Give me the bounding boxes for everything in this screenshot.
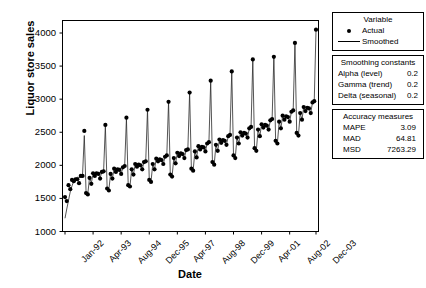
- legend-label-smoothed: Smoothed: [362, 37, 420, 46]
- data-point: [258, 134, 262, 138]
- data-point: [173, 161, 177, 165]
- data-point: [300, 118, 304, 122]
- accuracy-row-mape: MAPE 3.09: [336, 122, 420, 133]
- data-point: [102, 169, 106, 173]
- data-point: [191, 169, 195, 173]
- data-point: [207, 140, 211, 144]
- data-point: [279, 126, 283, 130]
- data-point: [63, 195, 67, 199]
- data-point: [182, 156, 186, 160]
- smoothing-gamma-label: Gamma (trend): [338, 79, 392, 90]
- data-point: [110, 176, 114, 180]
- data-point: [181, 152, 185, 156]
- smoothed-series-line: [65, 30, 316, 218]
- accuracy-msd-label: MSD: [343, 144, 361, 155]
- data-point: [66, 183, 70, 187]
- data-point: [166, 100, 170, 104]
- data-point: [80, 174, 84, 178]
- data-point: [209, 79, 213, 83]
- accuracy-msd-value: 7263.29: [387, 144, 416, 155]
- smoothing-gamma-value: 0.2: [407, 79, 418, 90]
- data-point: [312, 99, 316, 103]
- data-point: [86, 192, 90, 196]
- data-point: [77, 181, 81, 185]
- data-point: [277, 120, 281, 124]
- data-point: [281, 114, 285, 118]
- data-point: [123, 164, 127, 168]
- data-point: [144, 159, 148, 163]
- smoothing-alpha-value: 0.2: [407, 68, 418, 79]
- accuracy-measures-panel: Accuracy measures MAPE 3.09 MAD 64.81 MS…: [332, 109, 424, 159]
- data-point: [298, 111, 302, 115]
- data-point: [275, 141, 279, 145]
- data-point: [254, 149, 258, 153]
- variable-legend-title: Variable: [336, 15, 420, 24]
- data-point: [165, 153, 169, 157]
- accuracy-row-mad: MAD 64.81: [336, 133, 420, 144]
- data-point: [314, 28, 318, 32]
- accuracy-mape-value: 3.09: [400, 122, 416, 133]
- smoothing-row-delta: Delta (seasonal) 0.2: [336, 90, 420, 101]
- data-point: [96, 172, 100, 176]
- data-point: [202, 145, 206, 149]
- accuracy-mad-label: MAD: [343, 133, 361, 144]
- data-point: [68, 187, 72, 191]
- data-point: [149, 180, 153, 184]
- data-point: [124, 116, 128, 120]
- data-point: [237, 141, 241, 145]
- data-point: [140, 167, 144, 171]
- data-point: [267, 128, 271, 132]
- data-point: [172, 156, 176, 160]
- data-point: [288, 120, 292, 124]
- data-point: [214, 143, 218, 147]
- data-point: [293, 41, 297, 45]
- data-point: [87, 176, 91, 180]
- accuracy-mape-label: MAPE: [343, 122, 366, 133]
- data-point: [230, 69, 234, 73]
- data-point: [65, 199, 69, 203]
- legend-label-actual: Actual: [362, 26, 420, 35]
- data-point: [107, 188, 111, 192]
- data-point: [233, 156, 237, 160]
- data-point: [223, 139, 227, 143]
- data-point: [103, 123, 107, 127]
- data-point: [286, 115, 290, 119]
- data-point: [224, 143, 228, 147]
- legend-panels: Variable Actual Smoothed Smoothing const…: [332, 12, 424, 163]
- data-point: [193, 149, 197, 153]
- smoothing-row-alpha: Alpha (level) 0.2: [336, 68, 420, 79]
- data-point: [151, 162, 155, 166]
- accuracy-measures-title: Accuracy measures: [336, 112, 420, 121]
- data-point: [307, 106, 311, 110]
- data-point: [131, 173, 135, 177]
- smoothing-delta-value: 0.2: [407, 90, 418, 101]
- data-point: [117, 168, 121, 172]
- chart-screenshot: Liquor store sales Date 4000350030002500…: [0, 0, 426, 288]
- data-point: [186, 147, 190, 151]
- data-point: [244, 131, 248, 135]
- smoothing-delta-label: Delta (seasonal): [338, 90, 396, 101]
- data-point: [251, 57, 255, 61]
- data-point: [228, 133, 232, 137]
- data-point: [161, 162, 165, 166]
- filled-circle-marker-icon: [336, 29, 362, 33]
- plot-canvas: [0, 0, 330, 288]
- data-point: [145, 108, 149, 112]
- smoothing-constants-title: Smoothing constants: [336, 58, 420, 67]
- data-point: [245, 135, 249, 139]
- data-point: [82, 129, 86, 133]
- data-point: [170, 174, 174, 178]
- accuracy-mad-value: 64.81: [396, 133, 416, 144]
- data-point: [270, 117, 274, 121]
- data-point: [235, 135, 239, 139]
- data-point: [309, 111, 313, 115]
- legend-entry-actual: Actual: [336, 25, 420, 36]
- data-point: [75, 177, 79, 181]
- data-point: [130, 167, 134, 171]
- data-point: [216, 149, 220, 153]
- x-tick-label: Dec-03: [330, 238, 358, 266]
- data-point: [98, 176, 102, 180]
- data-point: [195, 155, 199, 159]
- smoothing-constants-panel: Smoothing constants Alpha (level) 0.2 Ga…: [332, 55, 424, 105]
- data-point: [203, 149, 207, 153]
